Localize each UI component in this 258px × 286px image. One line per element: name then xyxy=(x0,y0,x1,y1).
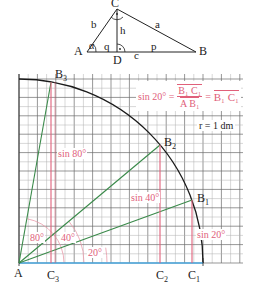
label-q: q xyxy=(104,40,110,52)
label-b: b xyxy=(91,18,97,30)
label-angle-20: 20° xyxy=(87,247,103,258)
label-sin80: sin 80° xyxy=(57,148,87,159)
formula-rhs: B₁ C₁ xyxy=(214,90,239,103)
label-h: h xyxy=(120,24,126,36)
diagram-canvas xyxy=(0,0,258,286)
label-angle-40: 40° xyxy=(60,232,76,243)
label-c: c xyxy=(134,49,139,61)
label-sin20: sin 20° xyxy=(196,229,226,240)
label-alpha: α xyxy=(89,40,94,51)
label-a: a xyxy=(155,18,160,30)
label-p: p xyxy=(151,40,157,52)
label-A-origin: A xyxy=(14,266,23,281)
formula-denominator: A B₁ xyxy=(180,97,199,109)
formula-eq: = xyxy=(205,91,211,102)
label-B2: B2 xyxy=(164,135,176,151)
label-D: D xyxy=(113,53,122,68)
formula-fraction: B₁ C₁ A B₁ xyxy=(177,84,202,109)
label-sin40: sin 40° xyxy=(130,192,160,203)
label-B: B xyxy=(199,44,207,59)
label-C1: C1 xyxy=(188,268,200,284)
label-C3: C3 xyxy=(47,268,59,284)
label-B3: B3 xyxy=(55,67,67,83)
label-A: A xyxy=(74,44,83,59)
label-C: C xyxy=(111,0,119,11)
label-B1: B1 xyxy=(197,191,209,207)
radius-label: r = 1 dm xyxy=(197,120,235,131)
label-C2: C2 xyxy=(156,268,168,284)
formula-lhs: sin 20° = xyxy=(138,91,174,102)
label-angle-80: 80° xyxy=(29,232,45,243)
formula-numerator: B₁ C₁ xyxy=(177,84,202,97)
sine-formula: sin 20° = B₁ C₁ A B₁ = B₁ C₁ xyxy=(136,81,241,111)
